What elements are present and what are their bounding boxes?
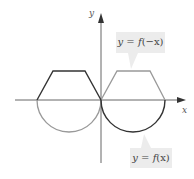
original-semicircle: [101, 100, 165, 132]
reflected-label-pointer: [128, 53, 138, 69]
original-label-pointer: [141, 134, 151, 148]
label-eq: =: [138, 152, 153, 163]
label-arg: (−x): [142, 36, 164, 47]
x-axis-arrow-icon: [177, 97, 186, 103]
y-axis-arrow-icon: [98, 13, 104, 23]
label-arg: (x): [156, 152, 169, 163]
reflection-diagram: y x y = f(−x) y = f(x): [0, 0, 194, 179]
reflected-semicircle: [37, 100, 101, 132]
original-trapezoid: [37, 71, 101, 100]
x-axis-label: x: [182, 105, 187, 115]
reflected-function-label: y = f(−x): [116, 32, 165, 53]
y-axis-label: y: [89, 8, 94, 18]
label-eq: =: [123, 36, 138, 47]
original-function-label: y = f(x): [130, 148, 172, 168]
reflected-trapezoid: [101, 71, 165, 100]
